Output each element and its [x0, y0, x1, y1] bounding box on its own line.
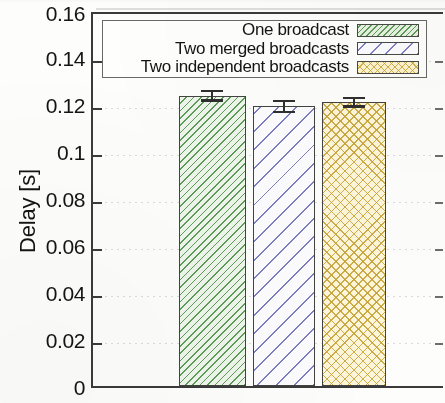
bar-two-independent-broadcasts: [322, 102, 386, 386]
legend-swatch-one-broadcast: [357, 24, 419, 37]
legend-label-one-broadcast: One broadcast: [242, 21, 349, 39]
bar-chart-figure: Delay [s] 0 0.02 0.04 0.06 0.08 0.1 0.12…: [0, 0, 445, 403]
error-cap-bottom: [201, 99, 223, 101]
y-tick-mark-right-002: [435, 343, 443, 345]
error-bar-two-merged-broadcasts: [273, 100, 295, 113]
error-cap-bottom: [273, 111, 295, 113]
legend-label-two-independent-broadcasts: Two independent broadcasts: [141, 58, 349, 76]
y-tick-mark-right-008: [435, 202, 443, 204]
y-tick-label-004: 0.04: [46, 282, 85, 306]
scan-artifact-line: [96, 8, 445, 10]
bar-fill-two-independent-broadcasts: [323, 103, 385, 385]
legend-swatch-fill: [358, 43, 418, 54]
y-tick-mark-right-006: [435, 249, 443, 251]
legend-item-one-broadcast: One broadcast: [103, 21, 426, 40]
y-tick-mark-006: [93, 249, 102, 251]
y-tick-mark-right-014: [435, 61, 443, 63]
error-cap-bottom: [343, 105, 365, 107]
legend-item-two-independent-broadcasts: Two independent broadcasts: [103, 58, 426, 77]
y-tick-label-008: 0.08: [46, 188, 85, 212]
y-tick-label-016: 0.16: [46, 2, 85, 26]
bar-one-broadcast: [179, 96, 246, 386]
legend-item-two-merged-broadcasts: Two merged broadcasts: [103, 40, 426, 59]
legend-swatch-two-independent-broadcasts: [357, 61, 419, 74]
bar-two-merged-broadcasts: [253, 106, 315, 386]
y-tick-label-012: 0.12: [46, 94, 85, 118]
y-tick-mark-012: [93, 108, 102, 110]
y-axis-tick-labels: 0 0.02 0.04 0.06 0.08 0.1 0.12 0.14 0.16: [0, 0, 85, 403]
legend-swatch-two-merged-broadcasts: [357, 42, 419, 55]
y-tick-mark-002: [93, 343, 102, 345]
bar-fill-one-broadcast: [180, 97, 245, 385]
error-bar-two-independent-broadcasts: [343, 97, 365, 108]
y-tick-mark-right-004: [435, 296, 443, 298]
y-tick-label-006: 0.06: [46, 235, 85, 259]
y-tick-mark-01: [93, 155, 102, 157]
legend-swatch-fill: [358, 62, 418, 73]
y-tick-mark-008: [93, 202, 102, 204]
bar-fill-two-merged-broadcasts: [254, 107, 314, 385]
y-tick-mark-right-012: [435, 108, 443, 110]
y-tick-mark-right-01: [435, 155, 443, 157]
y-tick-label-014: 0.14: [46, 47, 85, 71]
y-tick-mark-014: [93, 61, 102, 63]
chart-legend: One broadcast Two merged broadcasts Two …: [102, 20, 427, 78]
legend-label-two-merged-broadcasts: Two merged broadcasts: [175, 40, 349, 58]
y-tick-mark-004: [93, 296, 102, 298]
y-tick-label-01: 0.1: [57, 141, 85, 165]
y-tick-label-0: 0: [74, 376, 85, 400]
y-tick-label-002: 0.02: [46, 329, 85, 353]
legend-swatch-fill: [358, 25, 418, 36]
error-bar-one-broadcast: [201, 90, 223, 102]
